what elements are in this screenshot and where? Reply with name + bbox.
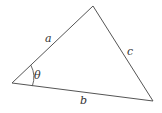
angle-label-theta: θ [34, 69, 41, 82]
side-label-a: a [45, 32, 52, 45]
triangle-diagram: a c b θ [0, 0, 162, 113]
side-label-b: b [80, 94, 87, 107]
side-label-c: c [127, 45, 133, 58]
